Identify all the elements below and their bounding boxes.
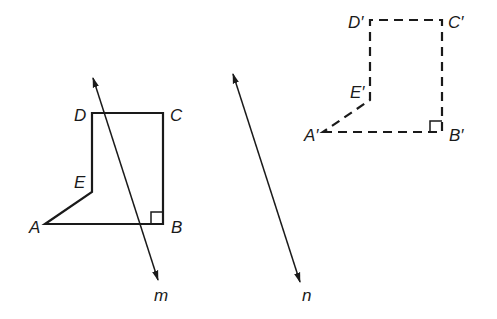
label-e-prime: E′ xyxy=(350,83,365,102)
label-b: B xyxy=(171,218,182,237)
label-c-prime: C′ xyxy=(448,13,464,32)
label-d: D xyxy=(74,106,86,125)
polygon-abcde-prime xyxy=(323,20,442,132)
polygon-abcde xyxy=(45,113,163,224)
label-a-prime: A′ xyxy=(303,126,319,145)
label-e: E xyxy=(74,173,86,192)
label-b-prime: B′ xyxy=(449,126,464,145)
label-a: A xyxy=(28,218,40,237)
original-figure xyxy=(45,113,163,224)
label-d-prime: D′ xyxy=(348,13,364,32)
right-angle-mark-b xyxy=(151,212,163,224)
label-n: n xyxy=(302,286,311,305)
image-figure xyxy=(323,20,442,132)
line-n xyxy=(233,74,300,282)
label-c: C xyxy=(170,106,183,125)
right-angle-mark-b-prime xyxy=(430,121,442,132)
reflection-diagram: A B C D E A′ B′ C′ D′ E′ m n xyxy=(0,0,497,319)
label-m: m xyxy=(154,286,168,305)
line-m xyxy=(93,78,158,280)
